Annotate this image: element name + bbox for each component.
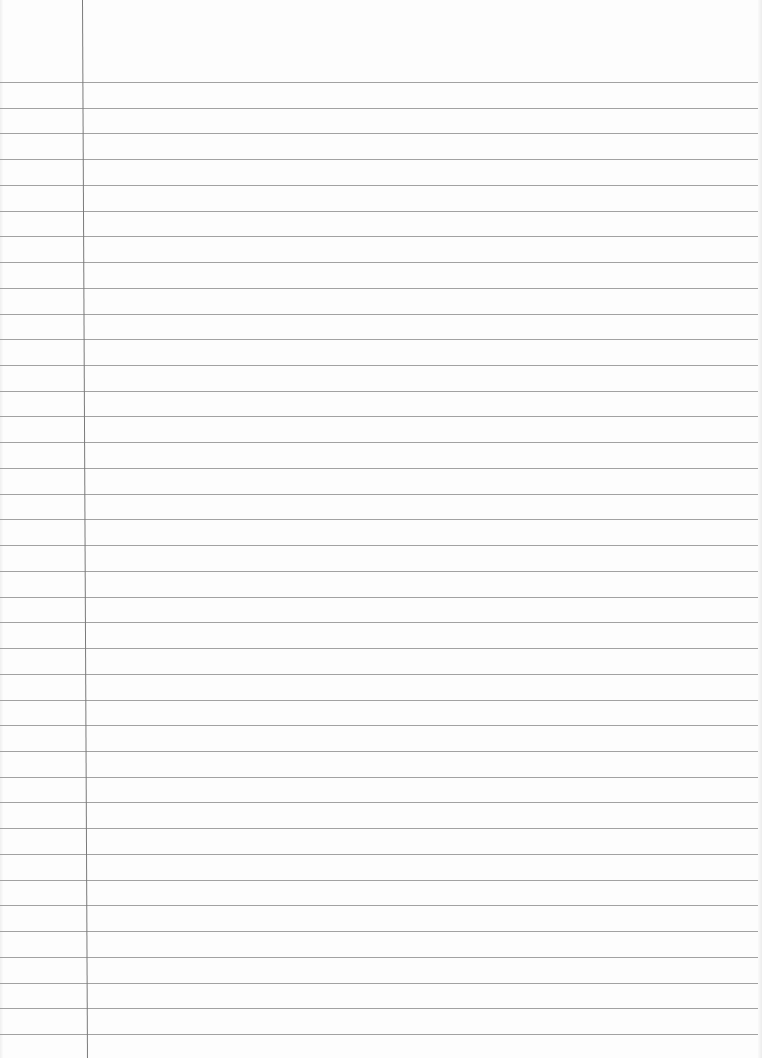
paper-right-edge (758, 0, 762, 1058)
ruled-line (0, 339, 758, 340)
ruled-line (0, 519, 758, 520)
ruled-line (0, 725, 758, 726)
ruled-line (0, 1008, 758, 1009)
ruled-line (0, 983, 758, 984)
ruled-line (0, 442, 758, 443)
ruled-line (0, 854, 758, 855)
ruled-line (0, 931, 758, 932)
ruled-line (0, 802, 758, 803)
ruled-line (0, 262, 758, 263)
ruled-line (0, 905, 758, 906)
ruled-line (0, 468, 758, 469)
ruled-line (0, 133, 758, 134)
ruled-line (0, 236, 758, 237)
ruled-line (0, 571, 758, 572)
ruled-line (0, 211, 758, 212)
ruled-line (0, 957, 758, 958)
ruled-line (0, 545, 758, 546)
ruled-line (0, 314, 758, 315)
ruled-line (0, 674, 758, 675)
ruled-line (0, 159, 758, 160)
ruled-line (0, 828, 758, 829)
ruled-line (0, 700, 758, 701)
ruled-line (0, 622, 758, 623)
ruled-line (0, 494, 758, 495)
ruled-line (0, 82, 758, 83)
ruled-line (0, 108, 758, 109)
ruled-line (0, 751, 758, 752)
ruled-line (0, 391, 758, 392)
ruled-line (0, 1034, 758, 1035)
ruled-line (0, 185, 758, 186)
lined-paper-sheet (0, 0, 762, 1058)
ruled-line (0, 880, 758, 881)
ruled-line (0, 288, 758, 289)
ruled-line (0, 777, 758, 778)
ruled-line (0, 597, 758, 598)
ruled-line (0, 648, 758, 649)
ruled-line (0, 416, 758, 417)
ruled-line (0, 365, 758, 366)
